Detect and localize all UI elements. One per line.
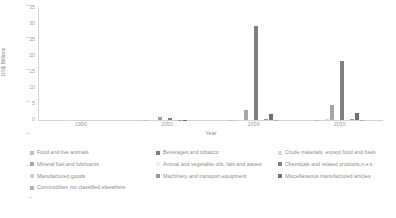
- legend-item[interactable]: Machinery and transport equipment: [156, 174, 278, 179]
- legend-swatch-icon: [30, 162, 34, 166]
- x-axis-tick-label: 2001: [161, 121, 173, 127]
- legend-swatch-icon: [278, 151, 282, 155]
- bar[interactable]: [244, 110, 248, 120]
- bar[interactable]: [355, 113, 359, 120]
- legend-swatch-icon: [278, 162, 282, 166]
- y-axis-tick-mark: [26, 165, 29, 166]
- x-axis-tick-label: 2015: [334, 121, 346, 127]
- x-axis-tick-label: 1990: [75, 121, 87, 127]
- legend-swatch-icon: [30, 151, 34, 155]
- bar-group-bars: [143, 8, 192, 120]
- y-axis-tick-mark: [26, 101, 29, 102]
- legend-label: Mineral fuel and lubricants: [37, 162, 99, 167]
- legend-item[interactable]: Animal and vegetable oils, fats and waxe…: [156, 162, 278, 167]
- legend-item[interactable]: Beverages and tobacco: [156, 150, 278, 155]
- legend-item[interactable]: Miscellaneous manufactured articles: [278, 174, 392, 179]
- x-axis-title: Year: [205, 130, 216, 136]
- legend-label: Manufactured goods: [37, 174, 85, 179]
- bar-group: 1990: [57, 8, 106, 120]
- legend-row: Mineral fuel and lubricantsAnimal and ve…: [30, 162, 392, 167]
- legend-label: Crude materials, except food and fuels: [285, 150, 376, 155]
- y-axis-tick-mark: [26, 5, 29, 6]
- bar[interactable]: [350, 119, 354, 120]
- legend-swatch-icon: [30, 174, 34, 178]
- bar-group-bars: [57, 8, 106, 120]
- legend-swatch-icon: [278, 174, 282, 178]
- legend-item[interactable]: Food and live animals: [30, 150, 156, 155]
- x-axis-line: [38, 120, 383, 121]
- legend-row: Manufactured goodsMachinery and transpor…: [30, 174, 392, 179]
- y-axis-tick-mark: [26, 133, 29, 134]
- y-axis-tick-label: 15: [29, 69, 35, 74]
- legend-swatch-icon: [30, 186, 34, 190]
- legend-swatch-icon: [156, 174, 160, 178]
- plot-area: 051015202530351990200120092015: [38, 8, 383, 120]
- legend-swatch-icon: [156, 151, 160, 155]
- legend-swatch-icon: [156, 162, 160, 166]
- bar-chart: US$ Billions 051015202530351990200120092…: [0, 0, 396, 218]
- y-axis-tick-label: 25: [29, 37, 35, 42]
- y-axis-tick-label: 30: [29, 21, 35, 26]
- legend-label: Chemicals and related products,n.e.s: [285, 162, 372, 167]
- bar[interactable]: [330, 105, 334, 120]
- y-axis-tick-mark: [26, 69, 29, 70]
- y-axis-tick-label: 0: [32, 117, 35, 122]
- y-axis-title: US$ Billions: [0, 47, 6, 76]
- y-axis-tick-mark: [26, 37, 29, 38]
- legend-row: Commodities not classified elsewhere: [30, 185, 392, 190]
- legend-item-empty: [278, 185, 392, 190]
- legend-item-empty: [156, 185, 278, 190]
- bar[interactable]: [340, 61, 344, 120]
- bar[interactable]: [269, 114, 273, 120]
- y-axis-tick-label: 35: [29, 5, 35, 10]
- legend-item[interactable]: Chemicals and related products,n.e.s: [278, 162, 392, 167]
- legend-item[interactable]: Commodities not classified elsewhere: [30, 185, 156, 190]
- bar[interactable]: [254, 26, 258, 120]
- y-axis-tick-label: 5: [32, 101, 35, 106]
- legend-label: Machinery and transport equipment: [163, 174, 246, 179]
- legend-item[interactable]: Mineral fuel and lubricants: [30, 162, 156, 167]
- bar[interactable]: [264, 119, 268, 120]
- legend-item[interactable]: Manufactured goods: [30, 174, 156, 179]
- legend-row: Food and live animalsBeverages and tobac…: [30, 150, 392, 155]
- bar-group: 2015: [315, 8, 364, 120]
- x-axis-tick-label: 2009: [248, 121, 260, 127]
- legend-label: Commodities not classified elsewhere: [37, 185, 126, 190]
- y-axis-tick-label: 10: [29, 85, 35, 90]
- legend-label: Miscellaneous manufactured articles: [285, 174, 371, 179]
- bar-group-bars: [229, 8, 278, 120]
- bar-group: 2009: [229, 8, 278, 120]
- bar-group: 2001: [143, 8, 192, 120]
- bar[interactable]: [325, 119, 329, 120]
- bar[interactable]: [158, 117, 162, 120]
- legend-label: Beverages and tobacco: [163, 150, 219, 155]
- y-axis-tick-label: 20: [29, 53, 35, 58]
- legend-label: Food and live animals: [37, 150, 89, 155]
- legend-item[interactable]: Crude materials, except food and fuels: [278, 150, 392, 155]
- legend-label: Animal and vegetable oils, fats and waxe…: [163, 162, 262, 167]
- bar-group-bars: [315, 8, 364, 120]
- chart-legend: Food and live animalsBeverages and tobac…: [30, 150, 392, 197]
